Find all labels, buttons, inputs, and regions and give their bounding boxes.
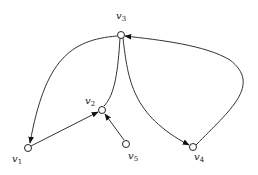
label-v3: v3	[116, 10, 126, 23]
edge-v3-v4	[123, 38, 189, 145]
edge-v2-v3	[104, 38, 120, 106]
edge-v1-v2	[31, 112, 98, 146]
node-v5	[123, 141, 130, 148]
edge-v5-v2	[105, 114, 124, 140]
edge-v4-v3	[125, 36, 243, 145]
label-v2: v2	[85, 95, 95, 108]
node-v3	[118, 32, 125, 39]
node-v2	[99, 107, 106, 114]
label-v4: v4	[194, 151, 205, 164]
graph-diagram: v3 v2 v1 v5 v4	[0, 0, 258, 175]
node-v4	[190, 144, 197, 151]
label-v1: v1	[12, 153, 22, 166]
edge-v3-v1	[30, 36, 117, 143]
node-v1	[25, 145, 32, 152]
label-v5: v5	[128, 150, 138, 163]
